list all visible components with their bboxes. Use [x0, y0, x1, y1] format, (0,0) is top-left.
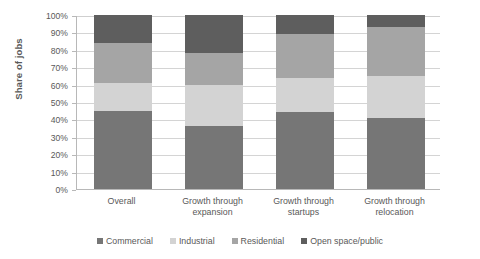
bar-column [94, 15, 152, 189]
x-axis-category-label: Growth throughrelocation [345, 196, 445, 218]
bar-segment [94, 43, 152, 83]
bar-segment [276, 78, 334, 113]
x-axis-label-line: relocation [345, 207, 445, 218]
y-axis-tick-mark [72, 190, 76, 191]
chart-legend: CommercialIndustrialResidentialOpen spac… [0, 236, 480, 246]
y-axis-tick-label: 80% [51, 46, 68, 56]
bar-series-container [77, 16, 440, 189]
y-axis-tick-label: 40% [51, 115, 68, 125]
bar-segment [276, 34, 334, 78]
legend-swatch-icon [232, 238, 238, 244]
x-axis-label-line: expansion [163, 207, 263, 218]
plot-area [76, 16, 440, 190]
y-axis-tick-label: 60% [51, 81, 68, 91]
bar-segment [185, 53, 243, 84]
bar-segment [94, 15, 152, 43]
y-axis-tick-label: 30% [51, 133, 68, 143]
y-axis-tick-label: 20% [51, 150, 68, 160]
y-axis-tick-label: 70% [51, 63, 68, 73]
y-axis-tick-label: 100% [46, 11, 68, 21]
bar-column [185, 15, 243, 189]
x-axis-label-line: Overall [72, 196, 172, 207]
y-axis-tick-label: 10% [51, 168, 68, 178]
y-axis-tick-label: 0% [56, 185, 68, 195]
bar-segment [367, 118, 425, 189]
legend-swatch-icon [170, 238, 176, 244]
x-axis-label-line: startups [254, 207, 354, 218]
legend-item[interactable]: Open space/public [301, 236, 383, 246]
y-axis-tick-label: 50% [51, 98, 68, 108]
legend-label: Industrial [179, 236, 215, 246]
x-axis-category-labels: OverallGrowth throughexpansionGrowth thr… [76, 196, 440, 226]
x-axis-category-label: Growth throughexpansion [163, 196, 263, 218]
legend-item[interactable]: Residential [232, 236, 285, 246]
legend-item[interactable]: Commercial [97, 236, 153, 246]
x-axis-category-label: Overall [72, 196, 172, 207]
bar-segment [367, 27, 425, 76]
bar-segment [367, 15, 425, 27]
bar-segment [94, 83, 152, 111]
bar-segment [185, 85, 243, 127]
bar-segment [185, 15, 243, 53]
y-axis-tick-label: 90% [51, 28, 68, 38]
bar-column [367, 15, 425, 189]
legend-label: Commercial [106, 236, 153, 246]
legend-swatch-icon [97, 238, 103, 244]
y-axis-tick-labels: 0%10%20%30%40%50%60%70%80%90%100% [36, 16, 72, 190]
x-axis-category-label: Growth throughstartups [254, 196, 354, 218]
x-axis-label-line: Growth through [345, 196, 445, 207]
x-axis-label-line: Growth through [254, 196, 354, 207]
y-axis-title: Share of jobs [13, 23, 31, 115]
stacked-bar-chart: Share of jobs 0%10%20%30%40%50%60%70%80%… [0, 0, 480, 259]
bar-segment [367, 76, 425, 118]
bar-segment [276, 15, 334, 34]
bar-column [276, 15, 334, 189]
bar-segment [94, 111, 152, 189]
x-axis-label-line: Growth through [163, 196, 263, 207]
legend-item[interactable]: Industrial [170, 236, 215, 246]
legend-label: Open space/public [310, 236, 383, 246]
legend-label: Residential [241, 236, 285, 246]
bar-segment [276, 112, 334, 189]
legend-swatch-icon [301, 238, 307, 244]
bar-segment [185, 126, 243, 189]
